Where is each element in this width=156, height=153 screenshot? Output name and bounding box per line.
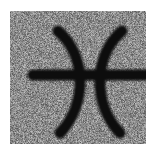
image-canvas xyxy=(0,0,156,153)
noisy-gray-plate xyxy=(10,11,146,144)
film-grain-noise-layer xyxy=(10,11,146,144)
